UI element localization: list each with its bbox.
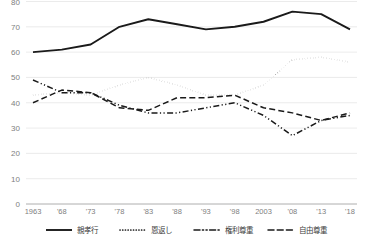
x-axis-labels-group: 1963'68'73'78'83'88'93'982003'08'13'18 (25, 207, 355, 216)
legend-item-label: 自由尊重 (299, 225, 328, 235)
legend-item-label: 親孝行 (77, 225, 99, 235)
y-axis-tick-label: 20 (11, 149, 20, 158)
x-axis-tick-label: '78 (115, 207, 125, 216)
x-axis-tick-label: '88 (172, 207, 182, 216)
x-axis-tick-label: '73 (86, 207, 96, 216)
x-axis-tick-label: '93 (201, 207, 211, 216)
y-axis-tick-label: 80 (11, 0, 20, 7)
series-line (33, 90, 350, 120)
gridlines-group (26, 2, 357, 205)
y-axis-tick-label: 0 (16, 200, 21, 209)
legend-group: 親孝行恩返し権利尊重自由尊重 (46, 225, 328, 235)
series-line (33, 57, 350, 95)
y-axis-tick-label: 60 (11, 48, 20, 57)
series-line (33, 12, 350, 53)
x-axis-tick-label: '13 (316, 207, 326, 216)
legend-item-label: 権利尊重 (225, 225, 254, 235)
y-axis-labels-group: 01020304050607080 (11, 0, 20, 209)
x-axis-tick-label: '68 (57, 207, 67, 216)
x-axis-tick-label: 1963 (25, 207, 42, 216)
series-lines-group (33, 12, 350, 136)
y-axis-tick-label: 30 (11, 124, 20, 133)
y-axis-tick-label: 50 (11, 73, 20, 82)
x-axis-tick-label: '98 (230, 207, 240, 216)
y-axis-tick-label: 10 (11, 175, 20, 184)
y-axis-tick-label: 70 (11, 23, 20, 32)
x-axis-tick-label: '18 (345, 207, 355, 216)
x-axis-tick-label: 2003 (255, 207, 272, 216)
series-line (33, 80, 350, 136)
x-axis-tick-label: '83 (143, 207, 153, 216)
x-axis-tick-label: '08 (287, 207, 297, 216)
y-axis-tick-label: 40 (11, 99, 20, 108)
legend-item-label: 恩返し (151, 226, 172, 235)
chart-canvas: 01020304050607080 1963'68'73'78'83'88'93… (0, 0, 365, 247)
line-chart: 01020304050607080 1963'68'73'78'83'88'93… (0, 0, 365, 247)
